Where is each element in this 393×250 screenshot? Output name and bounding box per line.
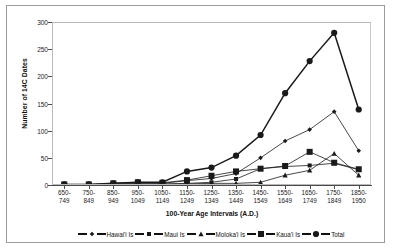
- plot-area: [52, 22, 371, 185]
- x-tick-mark: [138, 185, 139, 189]
- x-tick-label: 1550-1649: [277, 189, 293, 206]
- y-tick-mark: [48, 131, 52, 132]
- legend-label: Hawai'i Is: [107, 231, 134, 238]
- x-tick-line-1: 850-: [107, 189, 120, 196]
- data-point-triangle: [198, 231, 203, 236]
- y-tick-mark: [48, 49, 52, 50]
- x-tick-mark: [113, 185, 114, 189]
- x-tick-line-1: 950-: [132, 189, 145, 196]
- legend-marker-square-large: [257, 230, 265, 238]
- x-tick-line-2: 1049: [131, 197, 145, 204]
- x-tick-line-2: 749: [59, 197, 70, 204]
- x-tick-mark: [359, 185, 360, 189]
- x-tick-line-2: 1149: [156, 197, 170, 204]
- x-tick-line-1: 1550-: [277, 189, 293, 196]
- x-tick-line-1: 1850-: [351, 189, 367, 196]
- legend-item-maui-is[interactable]: Maui Is: [135, 230, 186, 238]
- legend-line-left: [78, 233, 87, 234]
- x-tick-line-1: 1250-: [203, 189, 219, 196]
- x-tick-line-1: 1750-: [326, 189, 342, 196]
- x-tick-label: 1850-1950: [351, 189, 367, 206]
- x-tick-line-1: 650-: [58, 189, 71, 196]
- x-tick-label: 850-949: [107, 189, 120, 206]
- y-tick-label: 50: [41, 154, 48, 161]
- y-tick-mark: [48, 158, 52, 159]
- x-tick-line-2: 1849: [327, 197, 341, 204]
- x-axis-tick-labels: 650-749750-849850-949950-10491050-114911…: [52, 189, 372, 211]
- y-tick-mark: [48, 22, 52, 23]
- x-tick-mark: [334, 185, 335, 189]
- plot-frame: [52, 22, 371, 185]
- y-tick-label: 300: [37, 19, 48, 26]
- legend-line-right: [266, 233, 275, 234]
- legend-line-left: [302, 233, 311, 235]
- x-tick-label: 950-1049: [131, 189, 145, 206]
- legend-line-right: [206, 233, 215, 234]
- legend-item-total[interactable]: Total: [302, 230, 346, 238]
- legend-item-moloka-i-is[interactable]: Moloka'i Is: [187, 230, 248, 238]
- legend-marker-diamond: [88, 230, 96, 238]
- y-tick-mark: [48, 185, 52, 186]
- x-tick-line-2: 1449: [229, 197, 243, 204]
- legend-item-kaua-i-is[interactable]: Kaua'i Is: [247, 230, 302, 238]
- x-tick-line-2: 1349: [204, 197, 218, 204]
- legend-item-hawai-i-is[interactable]: Hawai'i Is: [78, 230, 136, 238]
- x-tick-mark: [310, 185, 311, 189]
- x-tick-label: 1050-1149: [154, 189, 170, 206]
- x-tick-line-1: 1350-: [228, 189, 244, 196]
- x-tick-line-2: 949: [108, 197, 119, 204]
- x-tick-mark: [89, 185, 90, 189]
- x-axis-title: 100-Year Age Intervals (A.D.): [52, 210, 372, 217]
- y-tick-label: 100: [37, 127, 48, 134]
- x-tick-mark: [236, 185, 237, 189]
- x-tick-line-2: 1950: [352, 197, 366, 204]
- x-tick-line-1: 1050-: [154, 189, 170, 196]
- legend-line-left: [135, 233, 144, 234]
- legend-label: Moloka'i Is: [216, 231, 246, 238]
- y-tick-mark: [48, 76, 52, 77]
- x-tick-line-1: 1150-: [179, 189, 195, 196]
- data-point-square-small: [147, 232, 151, 236]
- legend-label: Maui Is: [164, 231, 184, 238]
- x-tick-line-1: 750-: [82, 189, 95, 196]
- chart-figure: Number of 14C Dates 050100150200250300 6…: [0, 0, 393, 250]
- x-tick-line-2: 849: [84, 197, 95, 204]
- x-tick-label: 650-749: [58, 189, 71, 206]
- x-tick-mark: [261, 185, 262, 189]
- x-tick-label: 1450-1549: [253, 189, 269, 206]
- x-tick-label: 1350-1449: [228, 189, 244, 206]
- legend-line-right: [154, 233, 163, 234]
- chart-legend: Hawai'i IsMaui IsMoloka'i IsKaua'i IsTot…: [52, 228, 372, 240]
- legend-marker-triangle: [197, 230, 205, 238]
- legend-line-right: [321, 233, 330, 235]
- x-tick-line-1: 1450-: [253, 189, 269, 196]
- data-point-circle: [313, 231, 319, 237]
- x-tick-mark: [212, 185, 213, 189]
- x-tick-label: 1750-1849: [326, 189, 342, 206]
- y-tick-mark: [48, 104, 52, 105]
- x-tick-line-2: 1549: [254, 197, 268, 204]
- legend-line-right: [97, 233, 106, 234]
- y-tick-label: 200: [37, 73, 48, 80]
- data-point-diamond: [89, 232, 94, 237]
- legend-label: Kaua'i Is: [276, 231, 300, 238]
- x-tick-label: 1250-1349: [203, 189, 219, 206]
- x-tick-line-1: 1650-: [302, 189, 318, 196]
- x-tick-mark: [187, 185, 188, 189]
- x-tick-mark: [285, 185, 286, 189]
- legend-marker-square-small: [145, 230, 153, 238]
- x-tick-mark: [162, 185, 163, 189]
- legend-line-left: [247, 233, 256, 234]
- legend-label: Total: [331, 231, 344, 238]
- x-tick-label: 1650-1749: [302, 189, 318, 206]
- x-tick-label: 1150-1249: [179, 189, 195, 206]
- x-tick-label: 750-849: [82, 189, 95, 206]
- x-tick-line-2: 1249: [180, 197, 194, 204]
- data-point-square-large: [258, 231, 264, 237]
- y-tick-label: 150: [37, 100, 48, 107]
- legend-marker-circle: [312, 230, 320, 238]
- y-tick-label: 250: [37, 46, 48, 53]
- x-tick-mark: [64, 185, 65, 189]
- x-tick-line-2: 1749: [303, 197, 317, 204]
- x-tick-line-2: 1649: [278, 197, 292, 204]
